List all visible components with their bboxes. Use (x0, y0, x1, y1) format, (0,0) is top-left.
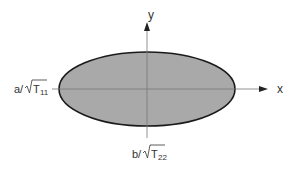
svg-text:b/: b/ (132, 148, 142, 160)
semi-axis-a-label: a/ T 11 (14, 80, 49, 97)
y-axis-arrow-icon (144, 22, 150, 31)
svg-text:a/: a/ (14, 83, 24, 95)
svg-text:T: T (33, 83, 40, 95)
y-axis-label: y (148, 8, 154, 22)
svg-text:11: 11 (40, 88, 49, 97)
svg-text:T: T (151, 148, 158, 160)
x-axis-arrow-icon (259, 86, 268, 92)
ellipse-diagram: x y a/ T 11 b/ T 22 (0, 0, 298, 170)
x-axis-label: x (277, 82, 283, 96)
semi-axis-b-label: b/ T 22 (132, 145, 167, 162)
svg-text:22: 22 (158, 153, 167, 162)
